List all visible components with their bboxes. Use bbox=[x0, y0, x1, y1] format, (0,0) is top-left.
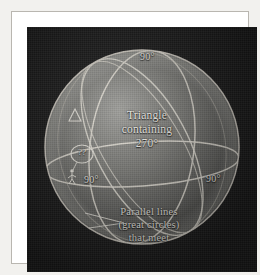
engraving-plate: Triangle containing 270° Parallel lines … bbox=[27, 27, 257, 272]
angle-label-left: 90° bbox=[84, 174, 99, 186]
parallel-caption-line-1: Parallel lines bbox=[89, 206, 209, 219]
parallel-caption-line-2: (great circles) bbox=[89, 219, 209, 232]
angle-label-right: 90° bbox=[206, 173, 221, 185]
figure-frame: Triangle containing 270° Parallel lines … bbox=[0, 0, 260, 275]
parallel-caption: Parallel lines (great circles) that meet bbox=[89, 206, 209, 244]
angle-label-top: 90° bbox=[140, 51, 155, 63]
triangle-caption: Triangle containing 270° bbox=[97, 108, 197, 150]
triangle-caption-line-3: 270° bbox=[97, 136, 197, 150]
triangle-caption-line-1: Triangle bbox=[97, 108, 197, 122]
triangle-caption-line-2: containing bbox=[97, 122, 197, 136]
parallel-caption-line-3: that meet bbox=[89, 232, 209, 245]
plate-border: Triangle containing 270° Parallel lines … bbox=[11, 11, 249, 264]
thought-bubble-text: ?? bbox=[71, 147, 93, 158]
